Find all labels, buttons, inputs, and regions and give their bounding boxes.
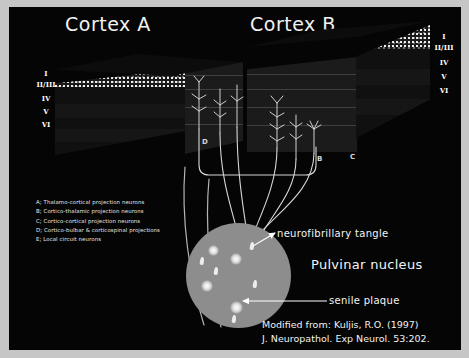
neurofibrillary-tangle	[199, 257, 204, 265]
senile-plaque-label: senile plaque	[329, 295, 400, 306]
layer-label: I	[433, 33, 455, 40]
cortex-a-layer-labels: I II/III IV V VI	[36, 70, 56, 128]
neurofibrillary-tangle-label: neurofibrillary tangle	[277, 228, 389, 239]
cortex-b-layer-labels: I II/III IV V VI	[433, 33, 455, 94]
slide-frame: Cortex A Cortex B	[0, 0, 469, 358]
pulvinar-nucleus-circle	[186, 223, 291, 328]
senile-plaque	[230, 301, 243, 314]
projection-legend: A; Thalamo-cortical projection neurons B…	[36, 198, 160, 244]
cortex-a-front-face	[55, 69, 185, 155]
citation: Modified from: Kuljis, R.O. (1997) J. Ne…	[262, 318, 430, 347]
layer-label: IV	[433, 59, 455, 66]
cortex-b-side-face	[356, 25, 430, 138]
diagram-canvas: Cortex A Cortex B	[9, 7, 461, 350]
senile-plaque	[201, 280, 213, 292]
senile-plaque	[208, 245, 219, 256]
cortex-a-title: Cortex A	[65, 13, 151, 35]
neurofibrillary-tangle	[231, 315, 236, 323]
layer-label: VI	[36, 121, 56, 128]
layer-label: II/III	[433, 44, 455, 51]
legend-item: A; Thalamo-cortical projection neurons	[36, 198, 160, 207]
cortex-a-label-d: D	[202, 138, 208, 146]
citation-line-1: Modified from: Kuljis, R.O. (1997)	[262, 318, 430, 332]
legend-item: D; Cortico-bulbar & corticospinal projec…	[36, 226, 160, 235]
citation-line-2: J. Neuropathol. Exp Neurol. 53:202.	[262, 332, 430, 346]
senile-plaque	[230, 253, 242, 265]
layer-label: I	[36, 70, 56, 77]
legend-item: B; Cortico-thalamic projection neurons	[36, 207, 160, 216]
cortex-b-label-c: C	[350, 153, 355, 161]
layer-label: II/III	[36, 81, 56, 88]
layer-label: V	[36, 108, 56, 115]
legend-item: C; Cortico-cortical projection neurons	[36, 217, 160, 226]
neurofibrillary-tangle	[252, 280, 257, 288]
cortex-a-side-face	[185, 62, 243, 154]
cortex-b-label-b: B	[317, 155, 322, 163]
pulvinar-nucleus-label: Pulvinar nucleus	[311, 257, 423, 272]
neurofibrillary-tangle	[213, 267, 218, 275]
neurofibrillary-tangle	[249, 242, 254, 250]
layer-label: IV	[36, 95, 56, 102]
cortex-b-front-face	[247, 57, 357, 152]
layer-label: V	[433, 73, 455, 80]
legend-item: E; Local circuit neurons	[36, 235, 160, 244]
layer-label: VI	[433, 87, 455, 94]
